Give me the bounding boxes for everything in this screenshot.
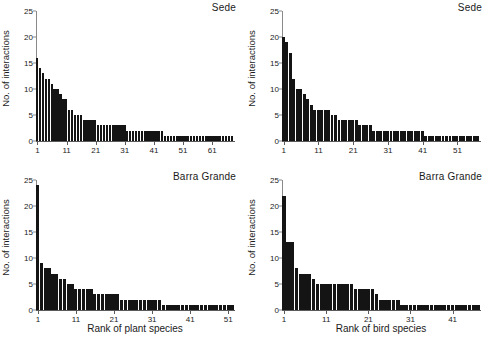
bar bbox=[472, 305, 476, 310]
bar bbox=[116, 294, 119, 310]
x-tick-mark bbox=[37, 142, 38, 145]
bar bbox=[36, 185, 39, 310]
bar bbox=[108, 294, 111, 310]
bar bbox=[196, 305, 199, 310]
bar bbox=[139, 300, 142, 310]
bar bbox=[451, 305, 455, 310]
x-tick-mark bbox=[152, 311, 153, 314]
plot-area: 0510152025 bbox=[36, 180, 234, 310]
bar bbox=[320, 110, 323, 141]
x-tick-mark bbox=[228, 311, 229, 314]
x-tick-label: 41 bbox=[418, 146, 427, 155]
bar bbox=[400, 131, 403, 141]
bar bbox=[290, 242, 294, 310]
y-axis-label: No. of interactions bbox=[0, 169, 12, 306]
bar bbox=[334, 115, 337, 141]
bar bbox=[362, 289, 366, 310]
x-tick-mark bbox=[183, 142, 184, 145]
bar bbox=[154, 300, 157, 310]
plot-area: 0510152025 bbox=[36, 11, 234, 141]
bar bbox=[44, 268, 47, 310]
bar bbox=[97, 294, 100, 310]
bar bbox=[468, 305, 472, 310]
bar bbox=[219, 305, 222, 310]
bar bbox=[392, 300, 396, 310]
bar bbox=[344, 120, 347, 141]
bar bbox=[208, 305, 211, 310]
bar bbox=[162, 305, 165, 310]
bar bbox=[286, 242, 290, 310]
bar bbox=[147, 300, 150, 310]
x-tick-label: 11 bbox=[62, 146, 70, 155]
bar bbox=[143, 300, 146, 310]
x-tick-mark bbox=[154, 142, 155, 145]
bar bbox=[215, 305, 218, 310]
x-tick-mark bbox=[353, 142, 354, 145]
bar bbox=[351, 120, 354, 141]
x-tick-mark bbox=[410, 311, 411, 314]
bar bbox=[379, 131, 382, 141]
x-tick-label: 1 bbox=[35, 146, 39, 155]
x-tick-mark bbox=[67, 142, 68, 145]
bar bbox=[82, 289, 85, 310]
bar bbox=[211, 305, 214, 310]
bar bbox=[282, 196, 286, 310]
bar bbox=[223, 305, 226, 310]
bar bbox=[375, 294, 379, 310]
bar bbox=[328, 284, 332, 310]
bar bbox=[350, 284, 354, 310]
bar bbox=[131, 300, 134, 310]
x-tick-mark bbox=[212, 142, 213, 145]
bar bbox=[316, 284, 320, 310]
bar bbox=[371, 289, 375, 310]
bar bbox=[200, 305, 203, 310]
bar bbox=[51, 274, 54, 310]
bar bbox=[386, 131, 389, 141]
x-tick-label: 21 bbox=[91, 146, 100, 155]
bar-series bbox=[282, 11, 480, 141]
bar bbox=[414, 131, 417, 141]
bar bbox=[459, 305, 463, 310]
bar bbox=[455, 305, 459, 310]
bar bbox=[407, 131, 410, 141]
bar bbox=[299, 274, 303, 310]
bar bbox=[358, 289, 362, 310]
x-tick-mark bbox=[190, 311, 191, 314]
bar bbox=[40, 263, 43, 310]
x-axis-label: Rank of bird species bbox=[282, 323, 480, 334]
bar bbox=[120, 300, 123, 310]
bar bbox=[204, 305, 207, 310]
x-tick-mark bbox=[125, 142, 126, 145]
bar bbox=[101, 294, 104, 310]
bar bbox=[383, 300, 387, 310]
y-axis-label: No. of interactions bbox=[0, 0, 12, 137]
bar bbox=[70, 284, 73, 310]
bar bbox=[455, 136, 458, 141]
bar bbox=[181, 305, 184, 310]
bar bbox=[413, 305, 417, 310]
bar bbox=[67, 284, 70, 310]
x-tick-label: 21 bbox=[349, 146, 358, 155]
bar bbox=[292, 79, 295, 141]
x-tick-label: 51 bbox=[453, 146, 462, 155]
x-tick-mark bbox=[326, 311, 327, 314]
bar bbox=[299, 89, 302, 141]
x-tick-label: 31 bbox=[383, 146, 392, 155]
bar bbox=[376, 131, 379, 141]
x-tick-mark bbox=[114, 311, 115, 314]
bar bbox=[285, 42, 288, 141]
x-axis-label: Rank of plant species bbox=[36, 323, 234, 334]
bar bbox=[189, 305, 192, 310]
bar bbox=[74, 289, 77, 310]
x-tick-group: 11121314151 bbox=[282, 142, 480, 164]
bar bbox=[348, 120, 351, 141]
bar bbox=[369, 125, 372, 141]
x-tick-label: 31 bbox=[120, 146, 129, 155]
x-tick-label: 11 bbox=[314, 146, 322, 155]
bar bbox=[400, 305, 404, 310]
bar bbox=[47, 268, 50, 310]
bar bbox=[410, 131, 413, 141]
bar bbox=[445, 136, 448, 141]
bar bbox=[463, 305, 467, 310]
bar bbox=[452, 136, 455, 141]
